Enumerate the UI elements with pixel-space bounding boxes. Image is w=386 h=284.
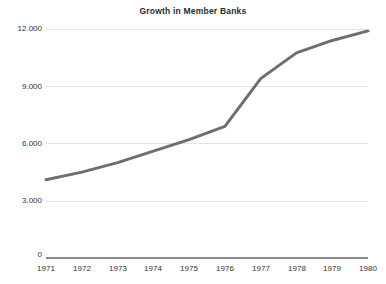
chart-container: Growth in Member Banks 12.000 9.000 6.00…	[0, 0, 386, 284]
plot-area	[46, 29, 368, 258]
x-axis-label-1972: 1972	[62, 264, 102, 273]
gridline-3000	[46, 201, 368, 202]
x-axis-label-1976: 1976	[205, 264, 245, 273]
gridline-6000	[46, 143, 368, 144]
y-axis-label-6000: 6.000	[0, 140, 42, 148]
x-axis-line	[46, 257, 368, 259]
x-axis-label-1977: 1977	[241, 264, 281, 273]
y-axis-label-9000: 9.000	[0, 83, 42, 91]
x-axis-label-1980: 1980	[348, 264, 386, 273]
x-axis-label-1971: 1971	[26, 264, 66, 273]
gridline-9000	[46, 86, 368, 87]
x-axis-label-1975: 1975	[169, 264, 209, 273]
chart-title: Growth in Member Banks	[0, 6, 386, 16]
y-axis-label-0: 0	[0, 251, 42, 259]
x-axis-label-1973: 1973	[98, 264, 138, 273]
x-axis-label-1979: 1979	[312, 264, 352, 273]
gridline-12000	[46, 29, 368, 30]
x-axis-label-1974: 1974	[133, 264, 173, 273]
y-axis-label-3000: 3.000	[0, 197, 42, 205]
y-axis-label-12000: 12.000	[0, 25, 42, 33]
x-axis-label-1978: 1978	[277, 264, 317, 273]
